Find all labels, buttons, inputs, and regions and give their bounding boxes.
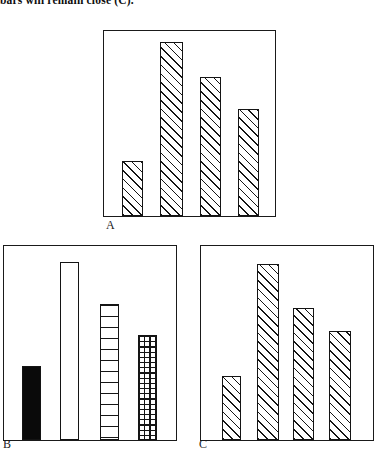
chart-panel-a — [103, 30, 276, 217]
bar-c-2 — [257, 264, 279, 441]
bar-a-3 — [200, 77, 221, 216]
plot-area-a — [104, 31, 275, 216]
panel-label-c: C — [199, 438, 207, 450]
chart-panel-c — [200, 245, 374, 441]
bar-a-2 — [160, 42, 183, 216]
chart-panel-b — [3, 245, 177, 441]
plot-area-b — [4, 246, 176, 440]
plot-area-c — [201, 246, 373, 440]
panel-label-b: B — [3, 438, 11, 450]
bar-a-4 — [238, 109, 259, 216]
panel-label-a: A — [106, 219, 115, 231]
bar-b-1 — [22, 366, 41, 440]
page-caption-text: bars will remain close (C). — [0, 0, 260, 7]
bar-b-3 — [100, 304, 119, 440]
bar-b-2 — [60, 262, 79, 441]
bar-c-4 — [329, 331, 351, 440]
bar-b-4 — [138, 335, 157, 440]
bar-c-3 — [293, 308, 314, 440]
bar-c-1 — [222, 376, 241, 440]
bar-a-1 — [122, 161, 143, 217]
